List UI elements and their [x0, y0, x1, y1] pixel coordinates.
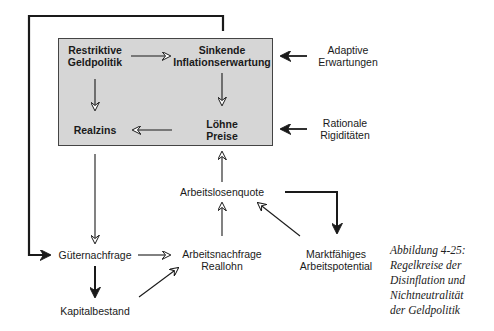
node-kapitalbestand: Kapitalbestand [60, 305, 129, 317]
node-adaptive-erwartungen: Adaptive Erwartungen [318, 44, 378, 68]
node-label: Arbeitslosenquote [180, 186, 264, 198]
node-label: Sinkende [173, 44, 270, 56]
node-label: Realzins [74, 124, 117, 136]
node-realzins: Realzins [74, 124, 117, 136]
arrow-arbeitslosenquote-to-arbeitspotential [285, 192, 337, 233]
node-marktfaehiges-arbeitspotential: Marktfähiges Arbeitspotential [300, 248, 372, 272]
node-label: Restriktive [68, 44, 122, 56]
node-label: Reallohn [182, 260, 261, 272]
caption-line: Disinflation und [390, 273, 466, 288]
node-gueternachfrage: Güternachfrage [59, 249, 132, 261]
node-label: Preise [206, 130, 238, 142]
node-label: Rationale [320, 117, 370, 129]
node-label: Kapitalbestand [60, 305, 129, 317]
node-loehne-preise: Löhne Preise [206, 118, 238, 142]
caption-line: Nichtneutralität [390, 288, 466, 303]
figure-caption: Abbildung 4-25: Regelkreise der Disinfla… [390, 243, 466, 318]
node-label: Arbeitsnachfrage [182, 248, 261, 260]
node-label: Marktfähiges [300, 248, 372, 260]
node-label: Löhne [206, 118, 238, 130]
arrow-arbeitspotential-to-arbeitslosenquote [258, 203, 300, 236]
node-restriktive-geldpolitik: Restriktive Geldpolitik [68, 44, 122, 68]
node-label: Erwartungen [318, 56, 378, 68]
node-rationale-rigiditaeten: Rationale Rigiditäten [320, 117, 370, 141]
node-arbeitsnachfrage-reallohn: Arbeitsnachfrage Reallohn [182, 248, 261, 272]
node-label: Inflationserwartung [173, 56, 270, 68]
caption-line: Abbildung 4-25: [390, 243, 466, 258]
node-label: Geldpolitik [68, 56, 122, 68]
node-label: Güternachfrage [59, 249, 132, 261]
node-arbeitslosenquote: Arbeitslosenquote [180, 186, 264, 198]
node-label: Rigiditäten [320, 129, 370, 141]
node-label: Arbeitspotential [300, 260, 372, 272]
caption-line: der Geldpolitik [390, 303, 466, 318]
node-sinkende-inflationserwartung: Sinkende Inflationserwartung [173, 44, 270, 68]
node-label: Adaptive [318, 44, 378, 56]
caption-line: Regelkreise der [390, 258, 466, 273]
arrow-kapitalbestand-to-arbeitsnachfrage [139, 268, 178, 297]
